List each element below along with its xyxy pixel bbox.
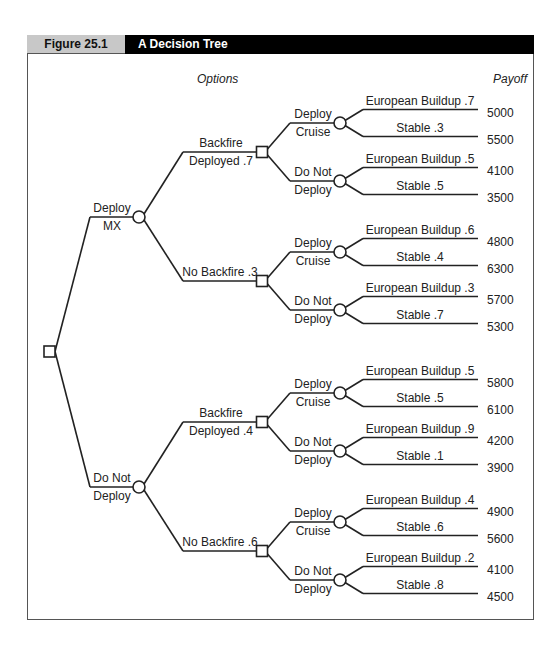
outcome-label: European Buildup .7 (366, 94, 475, 108)
branch-line (345, 313, 363, 324)
outcome-label: Stable .7 (396, 308, 443, 322)
outcome-label: Stable .6 (396, 520, 443, 534)
decision-node (257, 417, 268, 428)
branch-line (345, 297, 363, 308)
branch-label: Deploy (294, 377, 331, 391)
branch-label: Deploy (294, 236, 331, 250)
branch-line (345, 438, 363, 449)
chance-node (334, 574, 346, 586)
branch-line (345, 168, 363, 179)
branch-label: Do Not (294, 435, 331, 449)
branch-line (345, 184, 363, 195)
payoff-value: 5000 (487, 106, 514, 120)
outcome-label: European Buildup .3 (366, 281, 475, 295)
branch-label: Do Not (294, 294, 331, 308)
outcome-label: European Buildup .5 (366, 364, 475, 378)
branch-line (268, 252, 291, 278)
branch-line (345, 509, 363, 520)
branch-line (345, 454, 363, 465)
branch-line (268, 393, 291, 419)
branch-label: Deploy (294, 107, 331, 121)
payoff-value: 6300 (487, 262, 514, 276)
payoff-value: 5300 (487, 320, 514, 334)
branch-line (345, 567, 363, 578)
branch-label: No Backfire .3 (182, 265, 257, 279)
branch-label: Deployed .7 (189, 154, 253, 168)
chance-node (133, 481, 145, 493)
branch-line (144, 490, 183, 551)
branch-line (55, 352, 90, 488)
branch-label: Deploy (294, 312, 331, 326)
decision-node (257, 147, 268, 158)
outcome-label: European Buildup .4 (366, 493, 475, 507)
root-decision-node (44, 346, 55, 357)
chance-node (334, 304, 346, 316)
payoff-value: 4200 (487, 434, 514, 448)
payoff-value: 5800 (487, 376, 514, 390)
payoff-value: 4800 (487, 235, 514, 249)
outcome-label: European Buildup .2 (366, 551, 475, 565)
branch-line (268, 123, 291, 149)
chance-node (334, 516, 346, 528)
branch-label: Deploy (294, 506, 331, 520)
branch-line (345, 110, 363, 121)
branch-line (345, 396, 363, 407)
branch-label: No Backfire .6 (182, 535, 257, 549)
outcome-label: European Buildup .9 (366, 422, 475, 436)
outcome-label: Stable .1 (396, 449, 443, 463)
branch-label: Deploy (93, 201, 130, 215)
branch-line (144, 152, 183, 214)
branch-line (144, 422, 183, 484)
branch-line (268, 425, 291, 451)
branch-line (268, 554, 291, 580)
payoff-value: 5500 (487, 133, 514, 147)
payoff-value: 4900 (487, 505, 514, 519)
chance-node (334, 445, 346, 457)
branch-label: Do Not (294, 165, 331, 179)
outcome-label: Stable .5 (396, 179, 443, 193)
branch-line (345, 583, 363, 594)
chance-node (334, 175, 346, 187)
branch-label: Deploy (93, 489, 130, 503)
payoff-value: 4100 (487, 563, 514, 577)
payoff-value: 4500 (487, 590, 514, 604)
payoff-value: 3500 (487, 191, 514, 205)
branch-label: Backfire (199, 136, 242, 150)
payoff-value: 5700 (487, 293, 514, 307)
branch-label: Deployed .4 (189, 424, 253, 438)
branch-line (268, 522, 291, 548)
outcome-label: Stable .3 (396, 121, 443, 135)
payoff-value: 6100 (487, 403, 514, 417)
outcome-label: Stable .8 (396, 578, 443, 592)
payoff-value: 4100 (487, 164, 514, 178)
branch-label: Do Not (93, 471, 130, 485)
branch-label: Cruise (296, 254, 331, 268)
branch-line (345, 255, 363, 266)
branch-line (55, 217, 90, 352)
chance-node (133, 211, 145, 223)
branch-label: MX (103, 219, 121, 233)
decision-node (257, 546, 268, 557)
branch-line (345, 239, 363, 250)
branch-label: Cruise (296, 395, 331, 409)
outcome-label: Stable .5 (396, 391, 443, 405)
branch-label: Do Not (294, 564, 331, 578)
outcome-label: Stable .4 (396, 250, 443, 264)
branch-label: Deploy (294, 582, 331, 596)
chance-node (334, 387, 346, 399)
branch-line (268, 284, 291, 310)
outcome-label: European Buildup .6 (366, 223, 475, 237)
branch-line (345, 126, 363, 137)
branch-label: Backfire (199, 406, 242, 420)
decision-tree-diagram (0, 0, 559, 654)
branch-label: Deploy (294, 453, 331, 467)
decision-node (257, 276, 268, 287)
branch-line (144, 220, 183, 281)
outcome-label: European Buildup .5 (366, 152, 475, 166)
branch-line (345, 380, 363, 391)
branch-label: Deploy (294, 183, 331, 197)
payoff-value: 5600 (487, 532, 514, 546)
payoff-value: 3900 (487, 461, 514, 475)
chance-node (334, 117, 346, 129)
branch-label: Cruise (296, 125, 331, 139)
